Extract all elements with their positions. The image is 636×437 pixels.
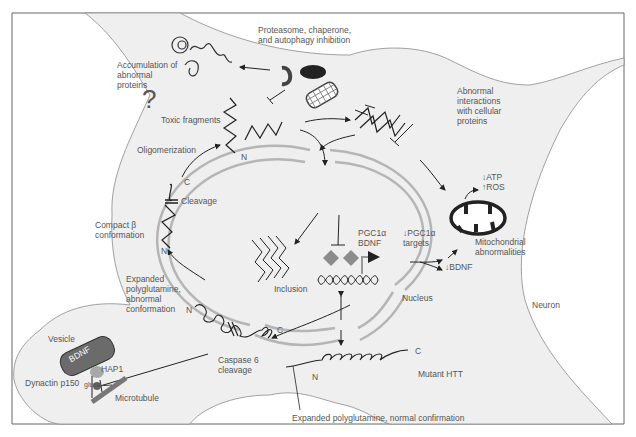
label-caspase6: Caspase 6 [218, 355, 259, 365]
label-pgc1a-targets: ↓PGC1α [403, 228, 435, 238]
label-microtubule: Microtubule [115, 393, 159, 403]
label-compact-beta: Compact β [95, 220, 136, 230]
label-proteasome: Proteasome, chaperone, [258, 25, 351, 35]
label-c-terminus-2: C [277, 325, 283, 335]
label-c-terminus-3: C [415, 346, 421, 356]
label-accumulation: Accumulation of [117, 60, 177, 70]
label-proteasome-2: and autophagy inhibition [258, 35, 350, 45]
label-glued: glued [84, 380, 101, 390]
label-accumulation-2: abnormal [117, 70, 152, 80]
label-abnormal-interactions: Abnormal [457, 86, 493, 96]
question-mark: ? [142, 86, 156, 112]
label-abnormalities: abnormalities [475, 247, 526, 257]
label-n-terminus-3: N [186, 305, 192, 315]
label-bdnf-down: ↓BDNF [445, 262, 472, 272]
label-vesicle: Vesicle [48, 334, 75, 344]
proteasome-icon [300, 65, 326, 79]
label-expanded-2: polyglutamine, [126, 284, 181, 294]
label-mitochondrial: Mitochondrial [475, 237, 526, 247]
label-mutant-htt: Mutant HTT [418, 369, 463, 379]
label-n-terminus-4: N [312, 372, 318, 382]
label-expanded-4: conformation [126, 304, 175, 314]
label-inclusion: Inclusion [274, 284, 308, 294]
label-caspase-cleavage: cleavage [218, 365, 252, 375]
label-oligomerization: Oligomerization [137, 145, 196, 155]
mitochondrion [451, 202, 505, 234]
label-toxic-fragments: Toxic fragments [161, 115, 221, 125]
huntington-pathway-diagram: Proteasome, chaperone, and autophagy inh… [0, 0, 636, 437]
label-abnormal-4: proteins [457, 116, 487, 126]
label-cleavage: Cleavage [181, 196, 217, 206]
label-n-terminus: N [241, 152, 247, 162]
label-abnormal-2: interactions [457, 96, 500, 106]
label-compact-2: conformation [95, 230, 144, 240]
label-dynactin: Dynactin p150 [25, 378, 79, 388]
label-neuron: Neuron [532, 300, 560, 310]
label-nucleus: Nucleus [402, 293, 433, 303]
label-c-terminus: C [184, 177, 190, 187]
label-expanded-abnormal: Expanded [126, 274, 164, 284]
label-targets: targets [403, 238, 429, 248]
label-pgc1a: PGC1α [358, 228, 386, 238]
label-hap1: HAP1 [101, 364, 123, 374]
label-bdnf-gene: BDNF [358, 238, 381, 248]
label-atp: ↓ATP [482, 172, 502, 182]
label-n-terminus-2: N [161, 246, 167, 256]
label-expanded-3: abnormal [126, 294, 161, 304]
label-expanded-normal: Expanded polyglutamine, normal confirmat… [292, 413, 464, 423]
label-ros: ↑ROS [482, 182, 505, 192]
label-abnormal-3: with cellular [457, 106, 501, 116]
